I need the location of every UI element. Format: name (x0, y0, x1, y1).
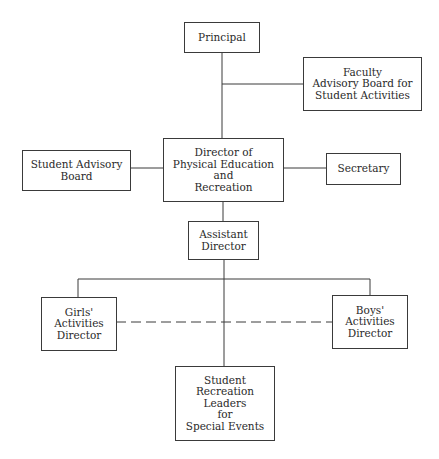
node-student-advisory-board: Student Advisory Board (22, 150, 131, 191)
node-secretary: Secretary (326, 153, 401, 185)
node-assistant-director: Assistant Director (188, 221, 259, 260)
node-principal: Principal (184, 22, 260, 53)
node-boys-activities-director: Boys' Activities Director (332, 295, 408, 349)
node-student-recreation-leaders: Student Recreation Leaders for Special E… (175, 366, 275, 441)
org-chart: Principal Faculty Advisory Board for Stu… (0, 0, 439, 459)
node-director: Director of Physical Education and Recre… (163, 138, 284, 202)
node-faculty-advisory-board: Faculty Advisory Board for Student Activ… (303, 57, 422, 111)
node-girls-activities-director: Girls' Activities Director (41, 297, 117, 351)
